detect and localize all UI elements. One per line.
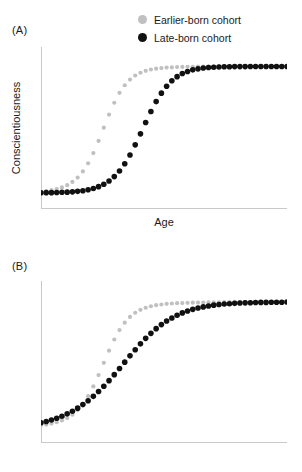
legend: Earlier-born cohort Late-born cohort	[138, 12, 241, 45]
panel-a-label: (A)	[12, 24, 27, 36]
scatter-series-b	[41, 281, 287, 443]
panel-a: (A) Earlier-born cohort Late-born cohort…	[0, 0, 302, 236]
legend-item-late-born: Late-born cohort	[138, 30, 241, 45]
x-axis-label-a: Age	[41, 216, 287, 228]
scatter-series-a	[41, 47, 287, 209]
panel-b: (B) Conscientiousness Age	[0, 236, 302, 472]
y-axis-label-a: Conscientiousness	[10, 82, 22, 174]
plot-area-a	[41, 47, 287, 209]
panel-b-label: (B)	[12, 260, 27, 272]
legend-label-late-born: Late-born cohort	[154, 32, 231, 44]
legend-label-earlier-born: Earlier-born cohort	[154, 14, 241, 26]
legend-marker-earlier-born-icon	[138, 15, 147, 24]
legend-marker-late-born-icon	[138, 33, 147, 42]
series-late-born-cohort	[41, 299, 287, 425]
plot-area-b	[41, 281, 287, 443]
series-earlier-born-cohort	[41, 64, 287, 193]
legend-item-earlier-born: Earlier-born cohort	[138, 12, 241, 27]
